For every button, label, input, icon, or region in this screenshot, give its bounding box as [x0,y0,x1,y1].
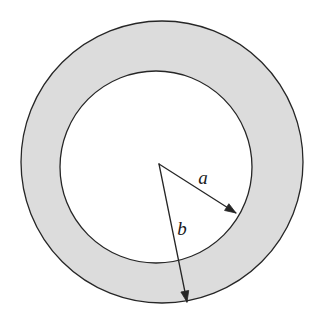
label-a: a [198,167,208,188]
annulus-figure: a b [0,0,327,324]
label-b: b [177,218,187,239]
inner-circle [60,71,252,263]
annulus-diagram-svg: a b [0,0,327,324]
